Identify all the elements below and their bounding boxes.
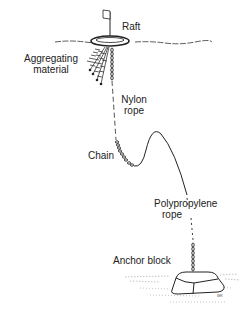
aggregating-material (87, 47, 109, 84)
lower-chain (192, 243, 194, 271)
label-nylon-rope: Nylon rope (116, 94, 152, 116)
artist-signature: MK (217, 293, 223, 298)
label-polypropylene-rope-line1: Polypropylene (154, 198, 217, 209)
label-nylon-rope-line2: rope (116, 105, 152, 116)
middle-chain (115, 141, 133, 166)
label-raft: Raft (122, 21, 140, 32)
label-aggregating-material-line2: material (15, 64, 87, 75)
label-aggregating-material: Aggregating material (15, 53, 87, 75)
upper-chain (111, 48, 113, 80)
label-chain: Chain (88, 150, 114, 161)
label-anchor-block: Anchor block (113, 255, 171, 266)
label-polypropylene-rope: Polypropylene rope (154, 198, 217, 220)
label-aggregating-material-line1: Aggregating (15, 53, 87, 64)
polypropylene-rope (134, 132, 187, 195)
label-polypropylene-rope-line2: rope (154, 209, 217, 220)
flag-icon (103, 10, 110, 19)
water-surface-line (55, 41, 212, 44)
label-nylon-rope-line1: Nylon (116, 94, 152, 105)
anchor-block (172, 272, 225, 294)
